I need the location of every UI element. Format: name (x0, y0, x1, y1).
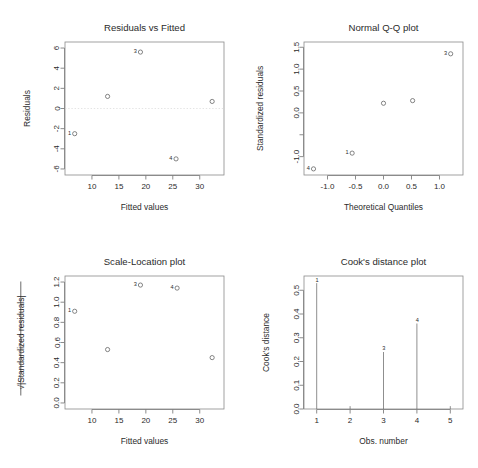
x-axis-tick-label: 0.5 (406, 182, 418, 191)
plot-title: Normal Q-Q plot (349, 22, 419, 33)
normal-qq-plot-svg: Normal Q-Q plot-1.00.00.51.01.5-1.0-0.50… (239, 0, 478, 234)
y-axis-tick-label: 0.2 (53, 377, 62, 389)
y-axis-tick-label: 0.5 (292, 85, 301, 97)
residuals-vs-fitted-svg: Residuals vs Fitted-6-4-202461015202530F… (0, 0, 239, 234)
point-label: 1 (345, 149, 348, 155)
data-point (311, 167, 315, 171)
x-axis-tick-label: 30 (195, 416, 204, 425)
y-axis-tick-label: 0.3 (292, 332, 301, 344)
data-point (350, 151, 354, 155)
data-point (449, 52, 453, 56)
y-axis-tick-label: -1.0 (292, 149, 301, 163)
data-point (175, 286, 179, 290)
point-label: 1 (68, 130, 71, 136)
y-axis-tick-label: 1.2 (53, 276, 62, 288)
y-axis-label: Cook's distance (261, 313, 271, 372)
y-axis-label: Standardized residuals (255, 66, 265, 151)
y-axis-label: √|Standardized residuals| (16, 282, 26, 396)
data-point (138, 50, 142, 54)
x-axis-tick-label: 10 (87, 416, 96, 425)
y-axis-tick-label: 0 (53, 106, 62, 111)
x-axis-label: Fitted values (121, 436, 168, 446)
point-label: 3 (444, 50, 447, 56)
y-axis-tick-label: 0.8 (53, 316, 62, 328)
y-axis-tick-label: -6 (53, 165, 62, 173)
x-axis-tick-label: 15 (114, 416, 123, 425)
plot-title: Scale-Location plot (104, 256, 186, 267)
x-axis-label: Obs. number (359, 436, 408, 446)
panel-normal-qq-plot: Normal Q-Q plot-1.00.00.51.01.5-1.0-0.50… (239, 0, 478, 234)
x-axis-tick-label: 2 (348, 416, 353, 425)
y-axis-tick-label: 1.5 (292, 41, 301, 53)
x-axis-tick-label: 4 (415, 416, 420, 425)
y-axis-tick-label: -2 (53, 125, 62, 133)
x-axis-label: Theoretical Quantiles (344, 202, 423, 212)
scale-location-plot-svg: Scale-Location plot0.00.20.40.60.81.01.2… (0, 234, 239, 468)
plot-frame (304, 42, 463, 175)
panel-scale-location-plot: Scale-Location plot0.00.20.40.60.81.01.2… (0, 234, 239, 468)
x-axis-tick-label: 25 (168, 182, 177, 191)
y-axis-tick-label: -4 (53, 145, 62, 153)
x-axis-tick-label: 5 (448, 416, 453, 425)
x-axis-tick-label: -0.5 (349, 182, 363, 191)
x-axis-tick-label: 30 (195, 182, 204, 191)
plot-title: Residuals vs Fitted (104, 22, 185, 33)
data-point (73, 309, 77, 313)
x-axis-tick-label: 10 (87, 182, 96, 191)
data-point (73, 132, 77, 136)
x-axis-tick-label: 20 (141, 416, 150, 425)
y-axis-tick-label: 0.1 (292, 379, 301, 391)
x-axis-tick-label: 15 (114, 182, 123, 191)
y-axis-tick-label: 0.4 (53, 357, 62, 369)
point-label: 4 (307, 165, 310, 171)
y-axis-tick-label: 0.6 (53, 336, 62, 348)
point-label: 4 (169, 155, 172, 161)
x-axis-tick-label: 1.0 (434, 182, 446, 191)
panel-residuals-vs-fitted: Residuals vs Fitted-6-4-202461015202530F… (0, 0, 239, 234)
y-axis-tick-label: 0.2 (292, 355, 301, 367)
data-point (210, 356, 214, 360)
x-axis-tick-label: 20 (141, 182, 150, 191)
point-label: 1 (68, 307, 71, 313)
point-label: 3 (134, 48, 137, 54)
x-axis-tick-label: -1.0 (321, 182, 335, 191)
x-axis-tick-label: 3 (381, 416, 386, 425)
point-label: 4 (416, 317, 419, 323)
data-point (210, 99, 214, 103)
y-axis-tick-label: 0.4 (292, 308, 301, 320)
x-axis-tick-label: 25 (168, 416, 177, 425)
data-point (105, 94, 109, 98)
point-label: 4 (170, 284, 173, 290)
plot-frame (65, 276, 224, 409)
diagnostic-plot-grid: Residuals vs Fitted-6-4-202461015202530F… (0, 0, 478, 468)
y-axis-label: Residuals (22, 90, 32, 127)
x-axis-label: Fitted values (121, 202, 168, 212)
point-label: 3 (382, 345, 385, 351)
data-point (381, 101, 385, 105)
cooks-distance-plot-svg: Cook's distance plot0.00.10.20.30.40.512… (239, 234, 478, 468)
y-axis-tick-label: 1.0 (292, 63, 301, 75)
data-point (174, 157, 178, 161)
y-axis-tick-label: 2 (53, 86, 62, 91)
y-axis-tick-label: 1.0 (53, 296, 62, 308)
x-axis-tick-label: 1 (314, 416, 319, 425)
point-label: 3 (134, 281, 137, 287)
y-axis-tick-label: 6 (53, 45, 62, 50)
x-axis-tick-label: 0.0 (378, 182, 390, 191)
y-axis-tick-label: 0.5 (292, 284, 301, 296)
plot-title: Cook's distance plot (341, 256, 427, 267)
data-point (138, 283, 142, 287)
data-point (411, 99, 415, 103)
point-label: 1 (316, 277, 319, 283)
panel-cooks-distance-plot: Cook's distance plot0.00.10.20.30.40.512… (239, 234, 478, 468)
y-axis-tick-label: 0.0 (292, 107, 301, 119)
y-axis-tick-label: 0.0 (53, 397, 62, 409)
y-axis-tick-label: 0.0 (292, 403, 301, 415)
y-axis-tick-label: 4 (53, 65, 62, 70)
data-point (105, 347, 109, 351)
